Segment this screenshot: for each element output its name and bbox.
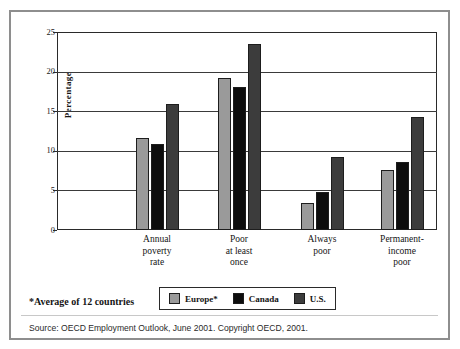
y-axis-tick-label: 10 — [25, 146, 55, 155]
bar-us-1 — [248, 44, 261, 230]
chart-footnote: *Average of 12 countries — [29, 296, 134, 307]
bar-europe-3 — [381, 170, 394, 230]
chart-source: Source: OECD Employment Outlook, June 20… — [29, 323, 308, 333]
y-axis-tick-mark — [53, 230, 57, 231]
legend-entry: Europe* — [169, 293, 218, 304]
y-axis-tick-mark — [53, 72, 57, 73]
legend-label: Europe* — [185, 294, 218, 304]
bar-canada-3 — [396, 162, 409, 230]
legend-entry: Canada — [233, 293, 279, 304]
y-axis-tick-label: 25 — [25, 28, 55, 37]
y-axis-tick-mark — [53, 151, 57, 152]
bar-us-3 — [411, 117, 424, 230]
figure-frame: Percentage 0510152025 AnnualpovertyrateP… — [9, 10, 450, 340]
y-axis-tick-mark — [53, 190, 57, 191]
bar-europe-2 — [301, 203, 314, 230]
category-label-line: poor — [354, 257, 450, 269]
chart-legend: Europe*CanadaU.S. — [159, 287, 336, 310]
bar-canada-0 — [151, 144, 164, 230]
x-axis-category-label: Poorat leastonce — [191, 234, 287, 269]
legend-label: Canada — [249, 294, 279, 304]
y-axis-tick-mark — [53, 111, 57, 112]
legend-swatch-icon — [233, 293, 244, 304]
category-label-line: Poor — [191, 234, 287, 246]
legend-swatch-icon — [169, 293, 180, 304]
y-axis-title: Percentage — [63, 50, 73, 140]
bar-canada-1 — [233, 87, 246, 230]
bar-us-0 — [166, 104, 179, 230]
bar-us-2 — [331, 157, 344, 230]
bar-europe-0 — [136, 138, 149, 230]
category-label-line: once — [191, 257, 287, 269]
y-axis-tick-label: 5 — [25, 186, 55, 195]
y-axis-tick-label: 15 — [25, 107, 55, 116]
legend-entry: U.S. — [294, 293, 326, 304]
plot-region: Percentage 0510152025 — [57, 32, 437, 230]
y-axis-tick-label: 0 — [25, 226, 55, 235]
y-axis-tick-label: 20 — [25, 67, 55, 76]
legend-label: U.S. — [310, 294, 326, 304]
bar-canada-2 — [316, 192, 329, 230]
x-axis-category-label: Permanent-incomepoor — [354, 234, 450, 269]
bar-europe-1 — [218, 78, 231, 230]
category-label-line: Permanent- — [354, 234, 450, 246]
source-divider — [21, 315, 438, 316]
category-label-line: income — [354, 246, 450, 258]
y-axis-tick-mark — [53, 32, 57, 33]
category-label-line: at least — [191, 246, 287, 258]
legend-swatch-icon — [294, 293, 305, 304]
